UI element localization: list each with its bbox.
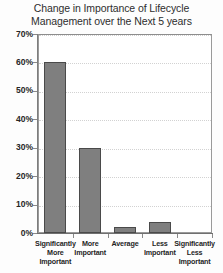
bar-slot: [108, 34, 143, 233]
y-tick-mark: [33, 62, 37, 63]
bar-slot: [177, 34, 212, 233]
y-tick-mark: [33, 119, 37, 120]
y-tick-label: 30%: [5, 143, 33, 152]
bar: [149, 222, 171, 233]
y-tick-mark: [33, 205, 37, 206]
x-tick-label-line: Less: [171, 248, 218, 257]
x-tick-mark: [142, 234, 143, 238]
chart-title-line-1: Change in Importance of Lifecycle: [0, 2, 223, 15]
y-tick-mark: [33, 148, 37, 149]
x-axis: SignificantlyMoreImportantMoreImportantA…: [38, 239, 212, 273]
x-axis-line: [37, 233, 213, 234]
x-tick-mark: [177, 234, 178, 238]
bar: [44, 62, 66, 233]
y-tick-label: 70%: [5, 30, 33, 39]
y-tick-mark: [33, 91, 37, 92]
bars-layer: [38, 34, 212, 233]
x-tick-label-line: Important: [171, 257, 218, 266]
x-tick-label-line: Important: [67, 248, 114, 257]
y-tick-label: 10%: [5, 200, 33, 209]
bar: [79, 148, 101, 233]
x-tick-mark: [212, 234, 213, 238]
chart-title: Change in Importance of Lifecycle Manage…: [0, 2, 223, 28]
bar-chart: Change in Importance of Lifecycle Manage…: [0, 0, 223, 273]
x-tick-mark: [108, 234, 109, 238]
y-tick-label: 40%: [5, 115, 33, 124]
y-tick-label: 20%: [5, 172, 33, 181]
y-tick-mark: [33, 233, 37, 234]
bar-slot: [73, 34, 108, 233]
x-tick-label: SignificantlyLessImportant: [171, 239, 218, 267]
x-tick-label-line: Significantly: [171, 239, 218, 248]
y-axis: 0%10%20%30%40%50%60%70%: [0, 0, 33, 273]
y-tick-label: 0%: [5, 229, 33, 238]
bar-slot: [142, 34, 177, 233]
x-tick-label-line: Important: [32, 257, 79, 266]
y-tick-label: 50%: [5, 86, 33, 95]
y-tick-label: 60%: [5, 58, 33, 67]
bar-slot: [38, 34, 73, 233]
chart-title-line-2: Management over the Next 5 years: [0, 15, 223, 28]
y-tick-mark: [33, 34, 37, 35]
y-tick-mark: [33, 176, 37, 177]
x-tick-mark: [73, 234, 74, 238]
